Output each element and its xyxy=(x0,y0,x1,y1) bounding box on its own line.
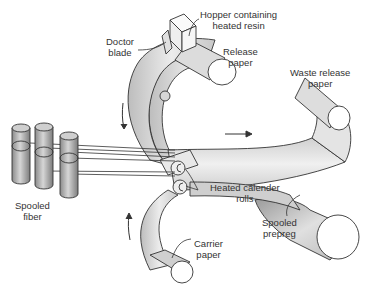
label-spooled-prepreg: Spooled prepreg xyxy=(262,217,297,239)
label-release-paper: Release paper xyxy=(223,46,258,68)
label-heated-calender-rolls: Heated calender rolls xyxy=(210,182,280,204)
label-doctor-blade: Doctor blade xyxy=(106,36,134,58)
carrier-paper-sheet xyxy=(141,190,193,283)
prepreg-process-diagram: Hopper containing heated resin Doctor bl… xyxy=(0,0,372,287)
diagram-canvas xyxy=(0,0,372,287)
label-hopper: Hopper containing heated resin xyxy=(200,9,277,31)
label-waste-release-paper: Waste release paper xyxy=(290,67,350,89)
label-spooled-fiber: Spooled fiber xyxy=(15,200,50,222)
guide-roll xyxy=(160,91,170,101)
spooled-fiber-spools xyxy=(12,123,78,198)
label-carrier-paper: Carrier paper xyxy=(194,238,223,260)
